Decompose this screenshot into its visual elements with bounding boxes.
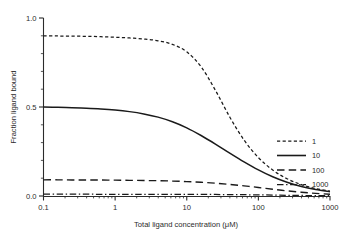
ligand-binding-line-chart: 0.00.51.0 0.11101001000 Total ligand con… <box>0 0 348 236</box>
x-tick-label: 1000 <box>322 203 339 212</box>
y-tick-label: 0.0 <box>26 192 37 201</box>
chart-figure: 0.00.51.0 0.11101001000 Total ligand con… <box>0 0 348 236</box>
data-curves <box>44 36 331 196</box>
curve-series-1000 <box>44 194 331 195</box>
y-tick-label: 0.5 <box>26 103 37 112</box>
legend-label-100: 100 <box>312 166 324 175</box>
x-tick-label: 0.1 <box>38 203 49 212</box>
legend-label-10: 10 <box>312 151 320 160</box>
plot-axes <box>44 18 331 197</box>
y-axis-ticks <box>39 18 44 196</box>
curve-series-1 <box>44 36 331 191</box>
y-axis-title: Fraction ligand bound <box>9 70 18 143</box>
x-axis-title: Total ligand concentration (μM) <box>134 220 238 229</box>
legend-label-1000: 1000 <box>312 180 328 189</box>
x-tick-label: 10 <box>183 203 191 212</box>
y-tick-label: 1.0 <box>26 14 37 23</box>
x-axis-tick-labels: 0.11101001000 <box>38 203 338 212</box>
x-tick-label: 100 <box>252 203 265 212</box>
legend-label-1: 1 <box>312 137 316 146</box>
y-axis-tick-labels: 0.00.51.0 <box>26 14 37 201</box>
x-tick-label: 1 <box>113 203 117 212</box>
